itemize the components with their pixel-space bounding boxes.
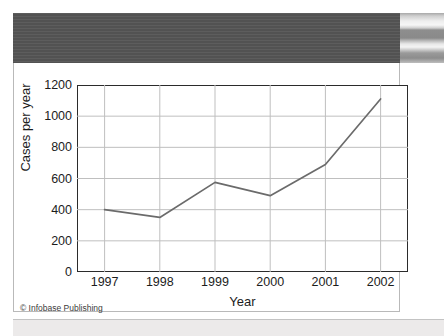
x-axis-title: Year [77,294,408,309]
copyright-credit: © Infobase Publishing [20,303,103,313]
y-tick-label: 400 [26,203,72,216]
y-tick-label: 1200 [26,79,72,92]
x-tick-label: 2001 [311,276,339,289]
bottom-band [13,319,444,336]
y-tick-label: 200 [26,235,72,248]
x-tick-label: 2000 [256,276,284,289]
x-tick-label: 1997 [91,276,119,289]
figure-root: 0 200 400 600 800 1000 1200 199 [0,0,444,336]
x-tick-label: 1998 [146,276,174,289]
x-axis-tick-labels: 1997 1998 1999 2000 2001 2002 [77,276,408,294]
x-tick-label: 1999 [201,276,229,289]
x-tick-label: 2002 [367,276,395,289]
y-tick-label: 800 [26,141,72,154]
data-line-cases-per-year [105,99,381,217]
y-axis-title: Cases per year [18,63,33,193]
header-banner [13,13,400,63]
y-tick-label: 600 [26,172,72,185]
horizontal-gridlines [77,116,408,241]
banner-gradient-bands [400,13,444,63]
plot-area [77,85,408,272]
banner-texture [13,13,400,63]
y-tick-label: 1000 [26,110,72,123]
y-tick-label: 0 [26,266,72,279]
